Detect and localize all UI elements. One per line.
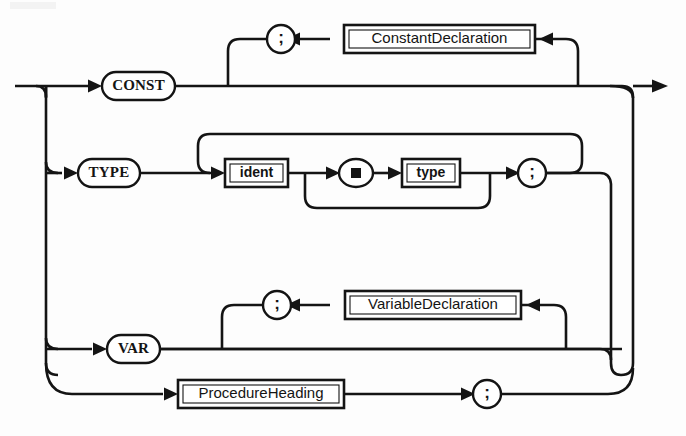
procedure-semicolon-token[interactable]: ; — [473, 380, 501, 408]
left-branch-corner — [36, 86, 46, 97]
exit-arrow — [652, 80, 668, 93]
var-semicolon-label: ; — [274, 294, 280, 313]
arrow-into-ident — [211, 167, 225, 180]
railroad-diagram-canvas: CONST ; ConstantDeclara — [0, 0, 686, 436]
constant-declaration-label: ConstantDeclaration — [372, 29, 508, 46]
railroad-diagram-svg: CONST ; ConstantDeclara — [0, 0, 686, 436]
type-value-label: type — [417, 164, 446, 180]
type-terminal[interactable]: TYPE — [78, 159, 140, 187]
arrow-into-procedure-heading — [164, 388, 178, 401]
arrow-into-const — [88, 80, 102, 93]
procedure-heading-nonterminal[interactable]: ProcedureHeading — [178, 380, 344, 408]
right-outer-rail — [610, 86, 658, 375]
var-keyword-label: VAR — [118, 340, 149, 356]
var-branch-entry — [46, 338, 92, 349]
const-keyword-label: CONST — [112, 77, 165, 93]
type-equals-bypass-loop — [305, 173, 490, 208]
left-branch-rail — [46, 86, 58, 375]
const-terminal[interactable]: CONST — [102, 72, 175, 100]
type-semicolon-label: ; — [529, 162, 535, 181]
const-semicolon-token[interactable]: ; — [267, 25, 295, 53]
procedure-branch-entry — [46, 363, 163, 394]
procedure-semicolon-label: ; — [484, 383, 490, 402]
type-nonterminal[interactable]: type — [402, 159, 460, 187]
arrow-into-constant-declaration — [539, 33, 553, 46]
type-keyword-label: TYPE — [89, 164, 130, 180]
variable-declaration-label: VariableDeclaration — [368, 295, 498, 312]
const-semicolon-label: ; — [278, 28, 284, 47]
type-main-rail — [140, 173, 621, 375]
arrow-into-type — [64, 167, 78, 180]
var-main-rail — [160, 349, 622, 360]
procedure-heading-label: ProcedureHeading — [198, 384, 323, 401]
ident-nonterminal[interactable]: ident — [225, 159, 288, 187]
var-semicolon-token[interactable]: ; — [263, 291, 291, 319]
constant-declaration-nonterminal[interactable]: ConstantDeclaration — [344, 25, 535, 53]
ident-label: ident — [240, 164, 274, 180]
type-semicolon-token[interactable]: ; — [518, 159, 546, 187]
arrow-into-var — [93, 343, 107, 356]
arrow-into-variable-declaration — [526, 299, 540, 312]
var-terminal[interactable]: VAR — [107, 335, 160, 363]
type-branch-entry — [46, 162, 62, 173]
arrow-into-type-box — [388, 167, 402, 180]
equals-token[interactable]: = — [339, 159, 373, 187]
variable-declaration-nonterminal[interactable]: VariableDeclaration — [345, 291, 521, 319]
